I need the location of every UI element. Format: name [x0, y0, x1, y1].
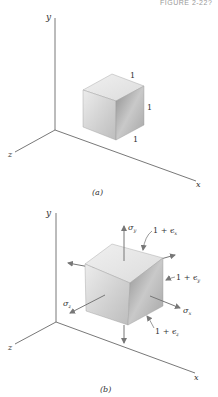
x-axis-a [55, 130, 196, 181]
panel-b-caption: (b) [100, 385, 111, 394]
sigma-x-label: σx [183, 306, 191, 316]
z-axis-b [15, 322, 56, 344]
z-axis-label-a: z [7, 150, 13, 159]
sigma-y-label: σy [128, 223, 136, 234]
panel-a-caption: (a) [92, 188, 103, 197]
leader-ex [143, 231, 152, 250]
strain-x-label: 1 + ϵx [153, 226, 177, 236]
y-axis-label-b: y [45, 208, 52, 218]
panel-b: y x z σy σx σz 1 + ϵx 1 + ϵy 1 + ϵz (b) [7, 208, 200, 394]
edge-label-bottom: 1 [133, 135, 138, 144]
strain-z-label: 1 + ϵz [155, 327, 179, 337]
figure-canvas: FIGURE 2-22? y x z 1 1 1 (a) y x z [0, 0, 218, 397]
strain-y-label: 1 + ϵy [176, 273, 200, 284]
figure-caption: FIGURE 2-22? [160, 0, 212, 6]
z-axis-a [15, 130, 55, 152]
edge-label-side: 1 [147, 103, 152, 112]
x-axis-label-a: x [196, 180, 201, 189]
leader-ez [147, 316, 154, 328]
z-axis-label-b: z [7, 343, 13, 352]
unit-cube-a [83, 74, 144, 140]
y-axis-label-a: y [45, 12, 52, 22]
leader-ey [166, 277, 175, 280]
sigma-z-label: σz [63, 299, 71, 309]
x-axis-label-b: x [194, 373, 199, 382]
edge-label-top: 1 [130, 71, 135, 80]
panel-a: y x z 1 1 1 (a) [7, 12, 201, 197]
